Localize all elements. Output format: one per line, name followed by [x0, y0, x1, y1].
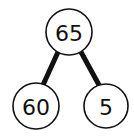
node-label: 65 — [55, 21, 83, 46]
node-label: 5 — [99, 95, 113, 120]
node-root: 65 — [46, 9, 92, 55]
node-left: 60 — [13, 83, 59, 129]
edge-root-left — [43, 52, 58, 85]
edge-root-right — [81, 52, 99, 85]
node-label: 60 — [22, 95, 50, 120]
node-right: 5 — [84, 84, 128, 128]
tree-diagram: 65 60 5 — [0, 0, 134, 140]
